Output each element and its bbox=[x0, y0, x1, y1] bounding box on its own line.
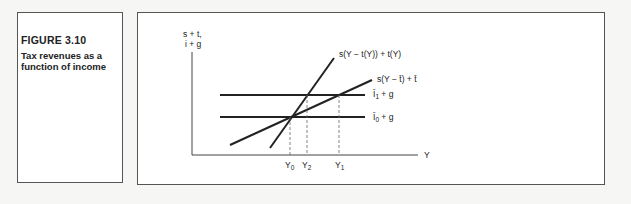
y-axis-label-line-2: i + g bbox=[185, 39, 202, 49]
figure-page: FIGURE 3.10 Tax revenues as a function o… bbox=[0, 0, 631, 204]
tick-label-y0: Y0 bbox=[285, 160, 295, 171]
flat-saving-tax-line bbox=[230, 80, 372, 145]
x-axis-label: Y bbox=[424, 150, 430, 160]
i1-line-label: Ī1 + g bbox=[373, 89, 394, 100]
tick-label-y1: Y1 bbox=[335, 160, 345, 171]
y-axis-label-line-1: s + t, bbox=[183, 29, 202, 39]
chart-plot: s + t, i + g Y s(Y − t(Y)) + t(Y) s(Y − … bbox=[0, 0, 631, 204]
flat-line-label: s(Y − t̄) + t̄ bbox=[377, 74, 417, 84]
tick-label-y2: Y2 bbox=[302, 160, 312, 171]
i0-line-label: Ī0 + g bbox=[373, 112, 394, 123]
steep-line-label: s(Y − t(Y)) + t(Y) bbox=[339, 49, 401, 59]
steep-saving-tax-line bbox=[270, 58, 334, 148]
